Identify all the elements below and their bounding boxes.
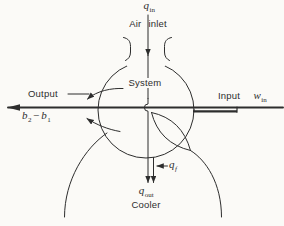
input-label: Input (218, 91, 240, 101)
availability-flow-arrow (87, 119, 120, 132)
exhaust-arrow-center (144, 99, 148, 183)
w-in-label: win (254, 90, 267, 101)
system-cooler-diagram: qin Airinlet System Output b2−b1 Input w… (0, 0, 284, 226)
output-flow-arrow (88, 88, 124, 99)
q-f-label: qf (169, 159, 176, 170)
system-label: System (128, 78, 163, 88)
q-out-label: qout (139, 185, 153, 196)
cooler-arc-left (65, 133, 108, 217)
circle-gap-mask (127, 52, 165, 67)
air-inlet-label: Airinlet (129, 19, 167, 29)
q-in-label: qin (144, 0, 155, 11)
b2-minus-b1-label: b2−b1 (22, 110, 50, 121)
cooler-arc-right (191, 151, 222, 218)
bellmouth-right (165, 38, 172, 61)
flow-duct-upper (152, 113, 191, 151)
output-label: Output (28, 89, 58, 99)
cooler-label: Cooler (131, 200, 160, 210)
flow-duct-lower (152, 113, 191, 151)
